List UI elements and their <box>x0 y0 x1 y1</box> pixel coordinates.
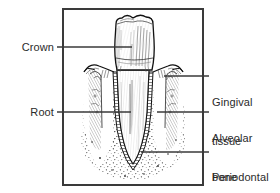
crown-enamel-region <box>112 14 158 72</box>
label-root: Root <box>4 106 54 119</box>
label-periodontal-ligament-line1: Periodontal <box>212 171 280 184</box>
figure-panel: Crown Root Gingival tissue Alveolar bone… <box>0 0 280 193</box>
label-alveolar-bone-line1: Alveolar <box>212 132 280 145</box>
label-crown: Crown <box>4 41 54 54</box>
label-periodontal-ligament: Periodontal ligament <box>212 145 280 193</box>
